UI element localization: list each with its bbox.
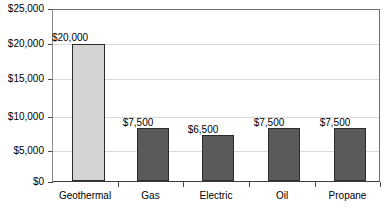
bar-value-gas: $7,500: [109, 117, 167, 128]
x-tick-label-geothermal: Geothermal: [52, 190, 118, 202]
y-tick-label: $15,000: [0, 74, 44, 84]
bar-value-propane: $7,500: [306, 117, 364, 128]
bar-value-geothermal: $20,000: [36, 32, 104, 43]
x-tick-label-gas: Gas: [118, 190, 183, 202]
y-tick-mark: [48, 182, 53, 183]
bar-electric: [202, 135, 234, 181]
x-axis-separator: [249, 182, 250, 187]
bar-gas: [137, 128, 169, 181]
x-axis-separator: [315, 182, 316, 187]
bar-value-electric: $6,500: [174, 124, 232, 135]
x-axis-separator: [380, 182, 381, 187]
bar-oil: [268, 128, 300, 181]
bar-propane: [334, 128, 366, 181]
bar-value-oil: $7,500: [240, 117, 298, 128]
x-axis-separator: [183, 182, 184, 187]
y-tick-label: $10,000: [0, 112, 44, 122]
bar-geothermal: [72, 44, 105, 181]
y-tick-label: $5,000: [0, 146, 44, 156]
x-tick-label-oil: Oil: [249, 190, 315, 202]
y-tick-label: $0: [0, 177, 44, 187]
x-tick-label-electric: Electric: [183, 190, 249, 202]
x-tick-label-propane: Propane: [315, 190, 380, 202]
y-tick-label: $25,000: [0, 4, 44, 14]
bar-chart: $25,000 $20,000 $15,000 $10,000 $5,000 $…: [0, 0, 388, 215]
x-axis-separator: [118, 182, 119, 187]
